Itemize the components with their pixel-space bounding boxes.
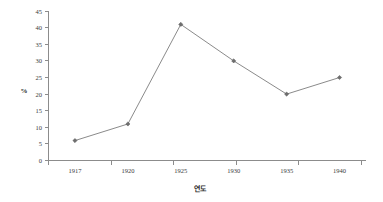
x-tick-label: 1925 bbox=[174, 167, 187, 174]
y-tick-label: 15 bbox=[36, 107, 43, 114]
y-axis-ticks: 0 5 10 15 20 25 30 35 40 45 bbox=[36, 8, 49, 164]
x-tick-label: 1935 bbox=[280, 167, 293, 174]
data-point-markers bbox=[73, 22, 342, 142]
x-axis-title: 연도 bbox=[194, 184, 207, 193]
y-tick-label: 35 bbox=[36, 41, 43, 48]
y-tick-label: 30 bbox=[36, 57, 43, 64]
x-tick-label: 1920 bbox=[121, 167, 134, 174]
y-tick-label: 0 bbox=[39, 157, 42, 164]
x-axis-ticks: 1917 1920 1925 1930 1935 1940 bbox=[49, 161, 362, 175]
y-tick-label: 5 bbox=[39, 140, 42, 147]
chart-container: % 연도 0 5 10 15 20 25 30 35 40 bbox=[0, 0, 383, 202]
data-series-line bbox=[75, 24, 340, 140]
data-point-marker bbox=[126, 122, 130, 126]
line-chart: % 연도 0 5 10 15 20 25 30 35 40 bbox=[0, 0, 383, 202]
data-point-marker bbox=[73, 138, 77, 142]
data-point-marker bbox=[337, 75, 341, 79]
data-point-marker bbox=[285, 92, 289, 96]
y-tick-label: 25 bbox=[36, 74, 43, 81]
y-tick-label: 45 bbox=[36, 8, 43, 15]
y-tick-label: 10 bbox=[36, 124, 43, 131]
y-tick-label: 20 bbox=[36, 91, 43, 98]
y-axis-title: % bbox=[21, 87, 28, 95]
x-tick-label: 1930 bbox=[227, 167, 240, 174]
y-tick-label: 40 bbox=[36, 24, 43, 31]
x-tick-label: 1940 bbox=[333, 167, 346, 174]
x-tick-label: 1917 bbox=[68, 167, 82, 174]
